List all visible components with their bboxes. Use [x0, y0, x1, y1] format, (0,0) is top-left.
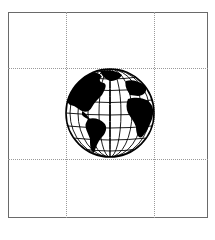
globe-icon [64, 67, 156, 159]
grid-line-horizontal [8, 159, 208, 160]
